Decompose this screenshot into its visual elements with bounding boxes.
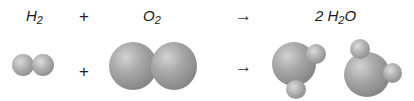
water-h-symbol: H <box>328 7 339 24</box>
oxygen-atom <box>109 42 157 90</box>
hydrogen-atom <box>350 39 370 59</box>
water-o-symbol: O <box>344 7 356 24</box>
h2-symbol: H <box>26 7 37 24</box>
arrow-top-icon: → <box>235 7 252 24</box>
water-formula: 2 H2O <box>315 8 356 26</box>
hydrogen-atom <box>286 80 306 99</box>
h2-subscript: 2 <box>37 14 43 26</box>
o2-formula: O2 <box>143 8 161 26</box>
oxygen-atom <box>151 42 197 90</box>
plus-sign-bottom: + <box>79 63 89 80</box>
hydrogen-atom <box>12 54 34 76</box>
h2-formula: H2 <box>26 8 43 26</box>
o2-subscript: 2 <box>155 14 161 26</box>
o2-symbol: O <box>143 7 155 24</box>
arrow-bottom-icon: → <box>235 58 252 75</box>
hydrogen-atom <box>32 54 54 76</box>
water-coefficient: 2 <box>315 7 323 24</box>
hydrogen-atom <box>306 44 326 64</box>
plus-sign-top: + <box>79 8 89 25</box>
hydrogen-atom <box>383 63 402 83</box>
